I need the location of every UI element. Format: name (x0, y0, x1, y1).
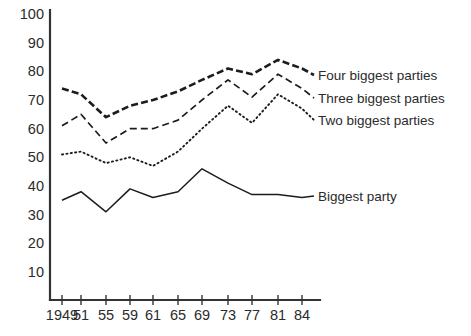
x-tick-label: 84 (294, 307, 310, 323)
x-axis-group: 194951555961656973778184 (46, 295, 320, 323)
x-tick-label: 69 (194, 307, 210, 323)
y-tick-label: 90 (28, 35, 44, 51)
x-tick-label: 77 (244, 307, 260, 323)
legend-label-three-biggest-parties: Three biggest parties (318, 91, 445, 106)
line-chart: 100908070605040302010 194951555961656973… (0, 0, 471, 336)
x-axis-tick-labels: 194951555961656973778184 (46, 307, 310, 323)
y-tick-label: 10 (28, 264, 44, 280)
series-line-four-biggest-parties (62, 60, 314, 117)
legend-label-four-biggest-parties: Four biggest parties (318, 68, 438, 83)
x-tick-label: 61 (145, 307, 161, 323)
x-tick-label: 81 (270, 307, 286, 323)
chart-container: 100908070605040302010 194951555961656973… (0, 0, 471, 336)
x-tick-label: 51 (73, 307, 89, 323)
x-tick-label: 65 (170, 307, 186, 323)
x-tick-label: 55 (98, 307, 114, 323)
legend-label-biggest-party: Biggest party (318, 189, 397, 204)
y-tick-label: 70 (28, 92, 44, 108)
y-tick-label: 40 (28, 178, 44, 194)
legend: Four biggest parties Three biggest parti… (318, 68, 445, 204)
y-tick-label: 80 (28, 63, 44, 79)
series-group (62, 60, 314, 212)
y-tick-label: 60 (28, 121, 44, 137)
y-axis-tick-labels: 100908070605040302010 (20, 6, 44, 280)
series-line-three-biggest-parties (62, 74, 314, 143)
legend-label-two-biggest-parties: Two biggest parties (318, 113, 435, 128)
y-tick-label: 20 (28, 235, 44, 251)
x-tick-label: 73 (220, 307, 236, 323)
y-axis-group: 100908070605040302010 (20, 6, 50, 300)
series-line-two-biggest-parties (62, 94, 314, 166)
y-tick-label: 30 (28, 207, 44, 223)
x-tick-label: 59 (122, 307, 138, 323)
series-line-biggest-party (62, 169, 314, 212)
y-tick-label: 100 (20, 6, 44, 22)
y-tick-label: 50 (28, 149, 44, 165)
